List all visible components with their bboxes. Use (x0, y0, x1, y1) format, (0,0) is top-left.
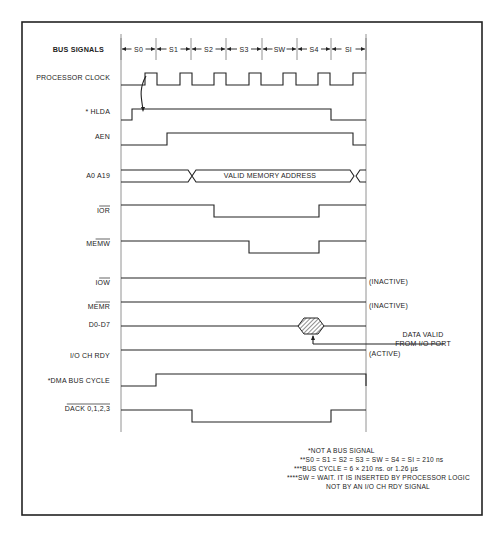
arrowhead (227, 47, 231, 51)
arrowhead (298, 47, 302, 51)
arrowhead (332, 47, 336, 51)
diagram-border (22, 22, 482, 515)
valid-address-text: VALID MEMORY ADDRESS (224, 172, 316, 179)
state-label: S4 (310, 46, 319, 53)
status-memr: (INACTIVE) (369, 302, 408, 310)
arrowhead (122, 47, 126, 51)
waveforms (121, 73, 444, 422)
wave-dma-bus-cycle (121, 374, 366, 386)
arrowhead (257, 47, 261, 51)
signal-labels: PROCESSOR CLOCK* HLDAAENA0 A19VALID MEMO… (36, 74, 316, 412)
state-label: S0 (134, 46, 143, 53)
signal-label-aen: AEN (95, 133, 110, 140)
state-label: S2 (204, 46, 213, 53)
signal-label-iow: IOW (95, 279, 110, 286)
signal-label-addr: A0 A19 (86, 172, 110, 179)
status-iow: (INACTIVE) (369, 278, 408, 286)
signal-label-memw: MEMW (86, 240, 110, 247)
state-header: BUS SIGNALSS0S1S2S3SWS4SI (53, 38, 366, 60)
signal-label-data: D0-D7 (89, 321, 110, 328)
signal-label-iochrdy: I/O CH RDY (70, 352, 110, 359)
dma-timing-diagram: BUS SIGNALSS0S1S2S3SWS4SI PROCESSOR CLOC… (0, 0, 503, 536)
signal-label-clock: PROCESSOR CLOCK (36, 74, 110, 81)
footnotes: *NOT A BUS SIGNAL**S0 = S1 = S2 = S3 = S… (287, 447, 470, 490)
arrowhead (326, 47, 330, 51)
arrowhead (192, 47, 196, 51)
footnote: NOT BY AN I/O CH RDY SIGNAL (326, 483, 430, 490)
footnote: *NOT A BUS SIGNAL (308, 447, 375, 454)
arrowhead (263, 47, 267, 51)
wave-aen (121, 133, 366, 145)
state-label: S3 (240, 46, 249, 53)
signal-label-dack: DACK 0,1,2,3 (65, 405, 110, 412)
arrowhead (186, 47, 190, 51)
bus-signals-label: BUS SIGNALS (53, 45, 104, 54)
signal-status-labels: (INACTIVE)(INACTIVE)DATA VALIDFROM I/O P… (369, 278, 451, 358)
wave-ior (121, 205, 366, 217)
footnote: ****SW = WAIT. IT IS INSERTED BY PROCESS… (287, 474, 470, 481)
state-label: S1 (169, 46, 178, 53)
data-valid-annotation: FROM I/O PORT (395, 340, 451, 347)
arrowhead (361, 47, 365, 51)
wave-processor-clock (121, 73, 366, 85)
data-valid-annotation: DATA VALID (403, 331, 444, 338)
wave-memw (121, 241, 366, 253)
signal-label-memr: MEMR (88, 303, 110, 310)
state-label: SW (274, 46, 286, 53)
arrowhead (221, 47, 225, 51)
status-iochrdy: (ACTIVE) (369, 350, 401, 358)
data-valid-window (298, 318, 324, 334)
state-label: SI (345, 46, 352, 53)
arrowhead (311, 335, 315, 340)
signal-label-hlda: * HLDA (85, 108, 110, 115)
arrowhead (151, 47, 155, 51)
signal-label-dmacycle: *DMA BUS CYCLE (48, 377, 110, 384)
signal-label-ior: IOR (97, 207, 110, 214)
wave-dack (121, 410, 366, 422)
arrowhead (157, 47, 161, 51)
footnote: ***BUS CYCLE = 6 × 210 ns. or 1.26 µs (294, 465, 419, 473)
footnote: **S0 = S1 = S2 = S3 = SW = S4 = SI = 210… (300, 456, 444, 463)
arrowhead (292, 47, 296, 51)
wave-hlda (121, 109, 366, 120)
